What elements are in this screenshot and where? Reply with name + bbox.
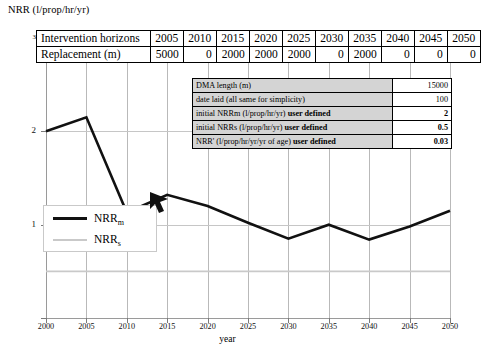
parameter-label-cell: initial NRRs (l/prop/hr/yr) user defined bbox=[193, 121, 393, 135]
parameter-label-cell: NRR' (l/prop/hr/yr/yr of age) user defin… bbox=[193, 135, 393, 149]
legend-label: NRRs bbox=[94, 232, 121, 251]
parameters-table: DMA length (m)15000date laid (all same f… bbox=[192, 78, 452, 149]
pointer-arrow-icon bbox=[148, 190, 174, 216]
intervention-horizons-table: Intervention horizons2005201020152020202… bbox=[36, 30, 481, 63]
legend-swatch bbox=[53, 217, 87, 220]
parameter-value-cell: 0.5 bbox=[393, 121, 452, 135]
table-cell: 0 bbox=[183, 47, 216, 63]
table-cell: 2000 bbox=[348, 47, 381, 63]
legend-swatch bbox=[53, 239, 87, 241]
table-row: NRR' (l/prop/hr/yr/yr of age) user defin… bbox=[193, 135, 452, 149]
table-cell: 2000 bbox=[282, 47, 315, 63]
parameter-value-cell: 2 bbox=[393, 107, 452, 121]
table-cell: 0 bbox=[414, 47, 447, 63]
table-cell: 2015 bbox=[216, 31, 249, 47]
table-cell: 0 bbox=[447, 47, 480, 63]
parameter-value-cell: 0.03 bbox=[393, 135, 452, 149]
legend-item: NRRm bbox=[44, 208, 156, 230]
x-axis-title: year bbox=[0, 334, 455, 344]
row-header-cell: Replacement (m) bbox=[37, 47, 151, 63]
table-cell: 2045 bbox=[414, 31, 447, 47]
table-row: Intervention horizons2005201020152020202… bbox=[37, 31, 481, 47]
table-cell: 2010 bbox=[183, 31, 216, 47]
parameter-label-cell: date laid (all same for simplicity) bbox=[193, 93, 393, 107]
legend-item: NRRs bbox=[44, 229, 156, 251]
parameter-note: user defined bbox=[284, 123, 327, 132]
table-cell: 2025 bbox=[282, 31, 315, 47]
table-cell: 2040 bbox=[381, 31, 414, 47]
row-header-cell: Intervention horizons bbox=[37, 31, 151, 47]
table-cell: 2050 bbox=[447, 31, 480, 47]
table-cell: 2005 bbox=[150, 31, 183, 47]
table-row: DMA length (m)15000 bbox=[193, 79, 452, 93]
table-row: initial NRRs (l/prop/hr/yr) user defined… bbox=[193, 121, 452, 135]
parameter-value-cell: 100 bbox=[393, 93, 452, 107]
table-cell: 2030 bbox=[315, 31, 348, 47]
table-row: initial NRRm (l/prop/hr/yr) user defined… bbox=[193, 107, 452, 121]
table-cell: 2035 bbox=[348, 31, 381, 47]
parameter-label-cell: initial NRRm (l/prop/hr/yr) user defined bbox=[193, 107, 393, 121]
table-row: Replacement (m)5000020002000200002000000 bbox=[37, 47, 481, 63]
table-cell: 2020 bbox=[249, 31, 282, 47]
parameter-label-cell: DMA length (m) bbox=[193, 79, 393, 93]
table-cell: 5000 bbox=[150, 47, 183, 63]
table-cell: 0 bbox=[381, 47, 414, 63]
parameter-note: user defined bbox=[293, 137, 336, 146]
table-cell: 2000 bbox=[249, 47, 282, 63]
legend-label: NRRm bbox=[94, 211, 124, 230]
table-cell: 2000 bbox=[216, 47, 249, 63]
legend: NRRmNRRs bbox=[43, 205, 157, 252]
parameter-value-cell: 15000 bbox=[393, 79, 452, 93]
table-cell: 0 bbox=[315, 47, 348, 63]
table-row: date laid (all same for simplicity)100 bbox=[193, 93, 452, 107]
parameter-note: user defined bbox=[288, 109, 331, 118]
